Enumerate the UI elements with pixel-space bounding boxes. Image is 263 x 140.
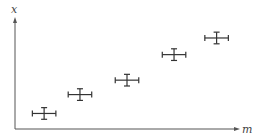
x-axis-arrow-icon — [234, 127, 240, 131]
y-axis-arrow-icon — [13, 17, 17, 23]
error-bar-point — [205, 32, 229, 44]
data-points — [32, 32, 228, 119]
axes: x m — [11, 3, 252, 136]
error-bar-point — [68, 89, 92, 101]
error-bar-point — [115, 74, 139, 86]
error-bar-point — [162, 49, 186, 61]
y-axis-label: x — [11, 3, 18, 16]
error-bar-point — [32, 108, 56, 120]
x-axis-label: m — [242, 123, 252, 136]
scatter-chart: x m — [0, 0, 263, 140]
